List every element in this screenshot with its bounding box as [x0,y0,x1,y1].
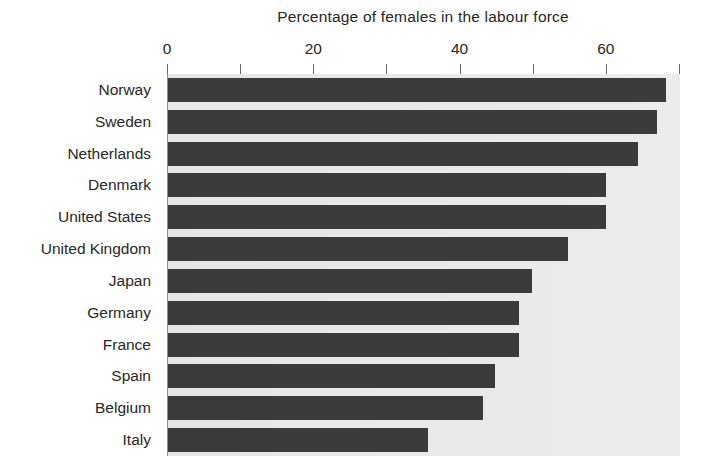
y-axis-category-label: Germany [87,304,151,322]
x-tick-label: 0 [163,40,172,58]
x-tick-label: 60 [597,40,614,58]
y-axis-category-label: Japan [109,272,151,290]
y-axis-category-label: Italy [123,431,151,449]
y-axis-category-label: United States [58,208,151,226]
bar [168,110,657,134]
x-tick-mark [679,64,680,74]
x-tick-mark [240,64,241,74]
x-tick-mark [606,64,607,74]
bar [168,205,606,229]
x-tick-mark [313,64,314,74]
bar [168,173,606,197]
chart-title: Percentage of females in the labour forc… [167,8,679,26]
bar [168,301,519,325]
bar [168,396,483,420]
bar [168,364,495,388]
chart-figure: Percentage of females in the labour forc… [0,0,701,476]
y-axis-category-label: Denmark [88,176,151,194]
x-tick-mark [533,64,534,74]
y-axis-category-label: Spain [111,367,151,385]
y-axis-labels: NorwaySwedenNetherlandsDenmarkUnited Sta… [0,74,160,456]
x-axis: 0204060 [167,40,679,74]
bar [168,78,666,102]
y-axis-category-label: Belgium [95,399,151,417]
x-tick-mark [386,64,387,74]
x-tick-label: 20 [305,40,322,58]
x-tick-mark [167,64,168,74]
plot-area [167,74,680,456]
bar [168,237,568,261]
bar [168,428,428,452]
y-axis-category-label: France [103,336,151,354]
y-axis-category-label: Norway [98,81,151,99]
bar [168,333,519,357]
y-axis-category-label: Sweden [95,113,151,131]
y-axis-category-label: United Kingdom [41,240,151,258]
x-tick-mark [460,64,461,74]
x-tick-label: 40 [451,40,468,58]
bar [168,142,638,166]
bar [168,269,532,293]
y-axis-category-label: Netherlands [67,145,151,163]
